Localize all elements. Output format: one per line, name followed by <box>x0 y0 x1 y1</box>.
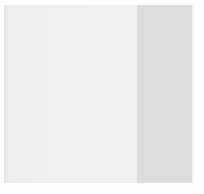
window-frame <box>0 0 204 194</box>
main-content-panel <box>4 5 137 183</box>
side-panel <box>137 5 192 183</box>
side-panel-border <box>192 5 194 183</box>
